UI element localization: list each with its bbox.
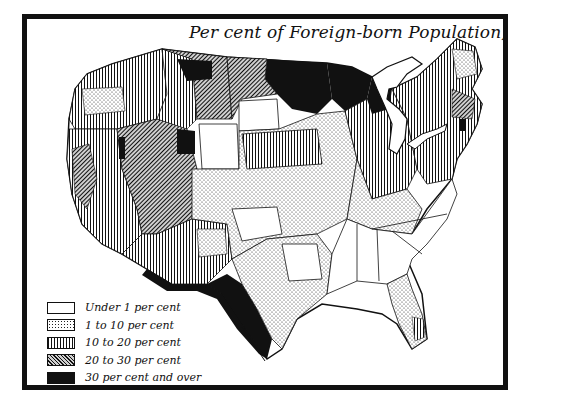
- legend-label: Under 1 per cent: [85, 301, 181, 314]
- region-wyoming-black: [177, 129, 195, 154]
- region-dakota-white: [239, 99, 279, 131]
- legend-item-10to20: 10 to 20 per cent: [47, 334, 201, 352]
- region-nebraska-vert: [242, 129, 322, 169]
- swatch-solid-icon: [47, 372, 75, 384]
- region-wyoming-white: [199, 124, 239, 169]
- legend-label: 30 per cent and over: [85, 371, 201, 384]
- legend-item-under1: Under 1 per cent: [47, 299, 201, 317]
- map-title: Per cent of Foreign-born Population, 190…: [189, 22, 508, 42]
- legend-label: 1 to 10 per cent: [85, 319, 174, 332]
- legend-label: 20 to 30 per cent: [85, 354, 181, 367]
- region-washington-dots: [82, 87, 125, 115]
- legend: Under 1 per cent 1 to 10 per cent 10 to …: [47, 299, 201, 387]
- legend-item-30plus: 30 per cent and over: [47, 369, 201, 387]
- swatch-vertical-lines-icon: [47, 337, 75, 349]
- swatch-blank-icon: [47, 302, 75, 314]
- map-frame: Per cent of Foreign-born Population, 190…: [22, 14, 508, 390]
- legend-item-20to30: 20 to 30 per cent: [47, 352, 201, 370]
- region-massachusetts-black: [460, 119, 466, 131]
- swatch-dots-icon: [47, 319, 75, 331]
- legend-label: 10 to 20 per cent: [85, 336, 181, 349]
- swatch-diagonal-lines-icon: [47, 354, 75, 366]
- region-nevada-black: [119, 137, 125, 159]
- region-arizona-dots: [197, 229, 227, 257]
- legend-item-1to10: 1 to 10 per cent: [47, 317, 201, 335]
- region-texas-white: [282, 244, 322, 281]
